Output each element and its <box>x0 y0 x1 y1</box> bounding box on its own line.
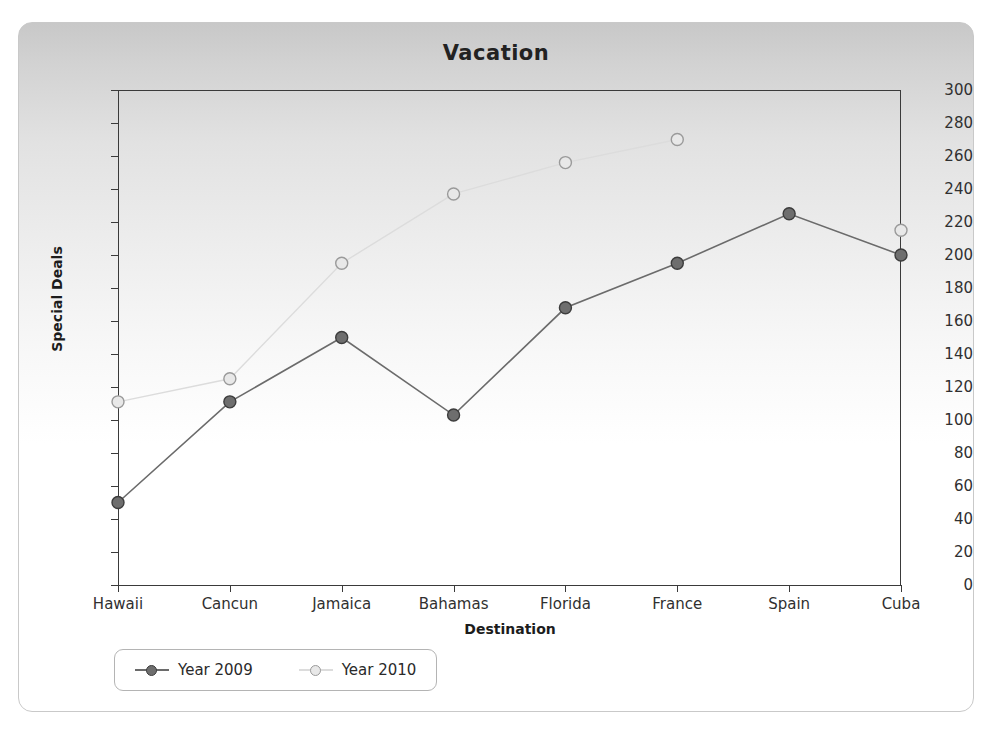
y-tick-label: 140 <box>885 345 973 363</box>
y-tick-mark <box>111 288 118 289</box>
chart-panel: Vacation 0204060801001201401601802002202… <box>18 22 974 712</box>
y-tick-mark <box>111 486 118 487</box>
x-tick-mark <box>454 585 455 592</box>
legend-label: Year 2009 <box>178 661 253 679</box>
legend-marker-icon <box>135 663 169 677</box>
y-tick-mark <box>111 156 118 157</box>
chart-legend: Year 2009Year 2010 <box>114 649 437 691</box>
y-tick-label: 260 <box>885 147 973 165</box>
x-axis-line <box>118 585 902 586</box>
x-tick-label: Cuba <box>836 595 966 613</box>
x-tick-label: Bahamas <box>389 595 519 613</box>
y-tick-mark <box>111 552 118 553</box>
y-tick-label: 20 <box>885 543 973 561</box>
x-tick-mark <box>901 585 902 592</box>
x-tick-mark <box>677 585 678 592</box>
x-tick-label: Spain <box>724 595 854 613</box>
y-tick-mark <box>111 90 118 91</box>
y-tick-mark <box>111 354 118 355</box>
x-axis-title: Destination <box>118 621 902 637</box>
y-tick-label: 300 <box>885 81 973 99</box>
y-tick-mark <box>111 321 118 322</box>
y-tick-label: 80 <box>885 444 973 462</box>
y-tick-mark <box>111 519 118 520</box>
y-tick-mark <box>111 123 118 124</box>
legend-item[interactable]: Year 2010 <box>299 661 417 679</box>
y-tick-label: 60 <box>885 477 973 495</box>
y-tick-label: 180 <box>885 279 973 297</box>
x-tick-label: Florida <box>500 595 630 613</box>
y-axis-title: Special Deals <box>49 239 65 359</box>
x-tick-label: Hawaii <box>53 595 183 613</box>
x-tick-mark <box>342 585 343 592</box>
y-tick-label: 120 <box>885 378 973 396</box>
y-tick-mark <box>111 585 118 586</box>
x-tick-label: Jamaica <box>277 595 407 613</box>
legend-label: Year 2010 <box>342 661 417 679</box>
y-tick-mark <box>111 453 118 454</box>
legend-item[interactable]: Year 2009 <box>135 661 253 679</box>
x-tick-mark <box>565 585 566 592</box>
legend-marker-icon <box>299 663 333 677</box>
y-tick-mark <box>111 222 118 223</box>
y-tick-label: 40 <box>885 510 973 528</box>
y-tick-label: 200 <box>885 246 973 264</box>
y-tick-mark <box>111 189 118 190</box>
x-tick-label: France <box>612 595 742 613</box>
y-tick-mark <box>111 387 118 388</box>
x-tick-mark <box>789 585 790 592</box>
plot-area <box>118 90 901 585</box>
chart-title: Vacation <box>19 41 973 65</box>
x-tick-mark <box>118 585 119 592</box>
y-tick-mark <box>111 255 118 256</box>
y-tick-label: 100 <box>885 411 973 429</box>
y-tick-label: 0 <box>885 576 973 594</box>
x-tick-label: Cancun <box>165 595 295 613</box>
y-tick-mark <box>111 420 118 421</box>
y-tick-label: 280 <box>885 114 973 132</box>
x-tick-mark <box>230 585 231 592</box>
y-tick-label: 240 <box>885 180 973 198</box>
y-tick-label: 160 <box>885 312 973 330</box>
y-tick-label: 220 <box>885 213 973 231</box>
